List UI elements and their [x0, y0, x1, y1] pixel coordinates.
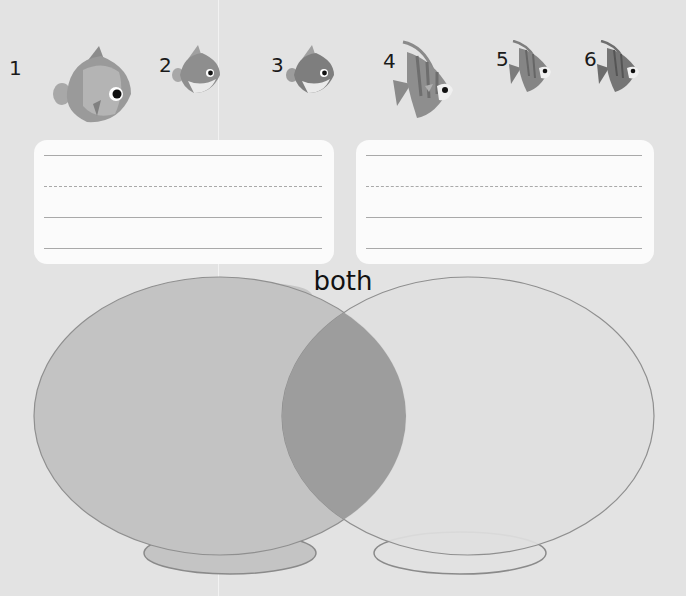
fish-number-6: 6: [584, 49, 597, 69]
angelfish-icon-6[interactable]: [597, 40, 643, 94]
writing-line-bottom: [44, 248, 322, 249]
writing-line-top: [44, 155, 322, 156]
writing-line-bottom: [366, 248, 642, 249]
angelfish-icon-4[interactable]: [393, 40, 457, 122]
writing-line-midline: [366, 186, 642, 187]
writing-line-baseline: [366, 217, 642, 218]
writing-line-baseline: [44, 217, 322, 218]
fish-number-3: 3: [271, 55, 284, 75]
left-writing-card[interactable]: [34, 140, 334, 264]
angelfish-icon-5[interactable]: [509, 40, 555, 94]
writing-line-midline: [44, 186, 322, 187]
butterflyfish-icon-1[interactable]: [53, 42, 135, 128]
butterflyfish-icon-2[interactable]: [172, 45, 222, 97]
fish-number-5: 5: [496, 49, 509, 69]
fish-number-2: 2: [159, 55, 172, 75]
right-writing-card[interactable]: [356, 140, 654, 264]
writing-line-top: [366, 155, 642, 156]
butterflyfish-icon-3[interactable]: [286, 45, 336, 97]
overlap-label: both: [300, 268, 386, 294]
fish-number-1: 1: [9, 58, 22, 78]
